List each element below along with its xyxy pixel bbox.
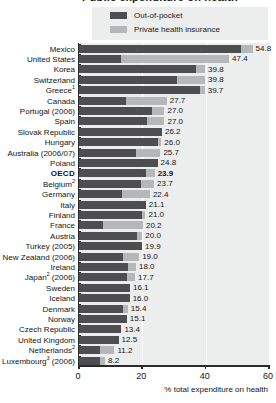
category-label: Ireland — [0, 262, 75, 273]
category-label: Italy — [0, 200, 75, 211]
category-label-text: Hungary — [45, 138, 75, 147]
category-label: Switzerland — [0, 75, 75, 86]
category-label: Finland — [0, 210, 75, 221]
category-label-text: Norway — [48, 315, 75, 324]
category-label-year: (2006) — [50, 273, 75, 282]
chart-legend: Out-of-pocket Private health insurance — [92, 7, 268, 40]
bar-value-label: 12.5 — [122, 334, 138, 345]
category-label-text: Sweden — [46, 284, 75, 293]
bar-segment-out-of-pocket — [79, 221, 103, 229]
bar-value-label: 39.8 — [208, 74, 224, 85]
bar-value-label: 18.0 — [139, 261, 155, 272]
bar-segment-private-health-insurance — [100, 357, 105, 365]
bar-segment-private-health-insurance — [141, 180, 154, 188]
category-label-text: Finland — [49, 211, 75, 220]
bar-segment-out-of-pocket — [79, 180, 141, 188]
bar-row: 18.0 — [79, 262, 269, 273]
legend-swatch-private-health-insurance — [110, 26, 127, 33]
category-label-text: Luxembourg — [2, 357, 46, 366]
bar-segment-out-of-pocket — [79, 242, 142, 250]
bar-segment-out-of-pocket — [79, 232, 137, 240]
category-label: Greece1 — [0, 85, 75, 96]
bar-value-label: 54.8 — [256, 43, 272, 54]
legend-label-out-of-pocket: Out-of-pocket — [134, 11, 182, 20]
category-label-text: Poland — [50, 159, 75, 168]
bar-row: 13.4 — [79, 324, 269, 335]
bar-segment-private-health-insurance — [126, 97, 167, 105]
bar-row: 20.0 — [79, 231, 269, 242]
bar-value-label: 26.2 — [165, 126, 181, 137]
bar-value-label: 21.0 — [149, 209, 165, 220]
category-label: Poland — [0, 158, 75, 169]
bar-segment-out-of-pocket — [79, 138, 158, 146]
page-title: Public expenditure on health — [82, 0, 238, 3]
category-label: Czech Republic — [0, 324, 75, 335]
bar-segment-private-health-insurance — [127, 273, 136, 281]
bar-value-label: 27.0 — [168, 105, 184, 116]
category-label-text: Australia (2006/07) — [7, 149, 75, 158]
bar-value-label: 19.0 — [142, 251, 158, 262]
bar-value-label: 16.1 — [133, 282, 149, 293]
bar-segment-private-health-insurance — [142, 211, 146, 219]
bar-row: 15.1 — [79, 314, 269, 325]
bar-value-label: 27.0 — [168, 116, 184, 127]
bar-segment-out-of-pocket — [79, 294, 130, 302]
bar-segment-private-health-insurance — [146, 169, 154, 177]
bar-segment-out-of-pocket — [79, 97, 126, 105]
legend-item-out-of-pocket: Out-of-pocket — [110, 11, 182, 20]
category-label-text: Switzerland — [34, 76, 75, 85]
category-label: Mexico — [0, 44, 75, 55]
bar-value-label: 15.1 — [130, 313, 146, 324]
bar-segment-out-of-pocket — [79, 357, 100, 365]
bar-value-label: 11.2 — [117, 345, 132, 356]
category-label: France — [0, 220, 75, 231]
bar-segment-out-of-pocket — [79, 336, 119, 344]
bar-segment-private-health-insurance — [158, 138, 161, 146]
footnote-marker: 1 — [72, 84, 75, 90]
bar-segment-out-of-pocket — [79, 55, 121, 63]
category-label: Turkey (2005) — [0, 241, 75, 252]
axis-title: % total expenditure on health — [164, 385, 268, 395]
bar-value-label: 20.2 — [146, 220, 162, 231]
bar-value-label: 39.8 — [208, 64, 224, 75]
bar-value-label: 15.4 — [131, 303, 147, 314]
bar-value-label: 21.1 — [149, 199, 165, 210]
bar-segment-out-of-pocket — [79, 65, 196, 73]
bar-row: 39.8 — [79, 75, 269, 86]
chart-title-strip: Public expenditure on health — [0, 0, 276, 6]
category-label: Netherlands2 — [0, 345, 75, 356]
bar-value-label: 26.0 — [164, 137, 180, 148]
axis-tick-label: 40 — [200, 371, 210, 381]
axis-tick — [205, 365, 207, 369]
bar-segment-private-health-insurance — [177, 76, 206, 84]
category-label-text: Czech Republic — [19, 325, 75, 334]
bar-segment-out-of-pocket — [79, 305, 123, 313]
legend-item-private-health-insurance: Private health insurance — [110, 25, 220, 34]
bar-row: 16.1 — [79, 283, 269, 294]
category-axis-labels: MexicoUnited StatesKoreaSwitzerlandGreec… — [0, 43, 75, 365]
bar-segment-out-of-pocket — [79, 263, 128, 271]
bar-row: 23.9 — [79, 168, 269, 179]
bar-row: 12.5 — [79, 335, 269, 346]
bar-segment-private-health-insurance — [152, 107, 165, 115]
bar-segment-private-health-insurance — [241, 45, 252, 53]
category-label-text: Mexico — [50, 45, 75, 54]
category-label: Australia (2006/07) — [0, 148, 75, 159]
category-label: Austria — [0, 231, 75, 242]
category-label-text: New Zealand (2006) — [3, 253, 75, 262]
bar-segment-private-health-insurance — [123, 253, 139, 261]
bar-value-label: 23.9 — [158, 168, 174, 179]
bar-value-label: 22.4 — [153, 189, 169, 200]
bar-segment-private-health-insurance — [122, 190, 150, 198]
bar-value-label: 19.9 — [145, 241, 161, 252]
category-label: OECD — [0, 168, 75, 179]
category-label-text: Ireland — [51, 263, 75, 272]
category-label-text: Germany — [42, 190, 75, 199]
bar-row: 16.0 — [79, 293, 269, 304]
category-label: Portugal (2006) — [0, 106, 75, 117]
bar-value-label: 24.8 — [161, 157, 177, 168]
category-label-text: Turkey (2005) — [26, 242, 76, 251]
bar-segment-out-of-pocket — [79, 273, 127, 281]
category-label: Korea — [0, 64, 75, 75]
category-label: Hungary — [0, 137, 75, 148]
